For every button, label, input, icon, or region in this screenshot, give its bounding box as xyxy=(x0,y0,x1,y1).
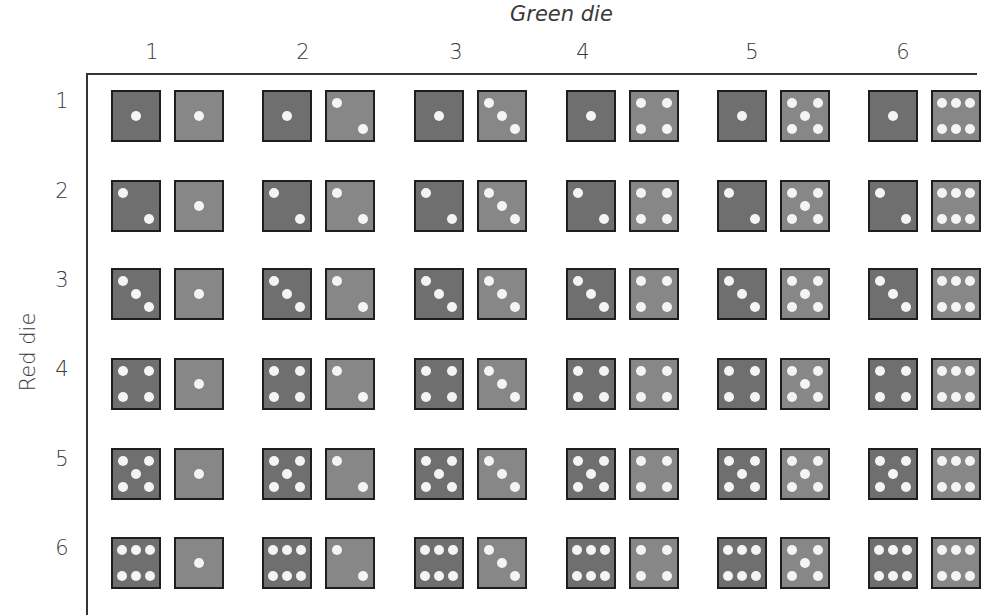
pip-dot-icon xyxy=(447,214,457,224)
pip-dot-icon xyxy=(951,276,961,286)
pip-dot-icon xyxy=(484,366,494,376)
green-die-face-6 xyxy=(931,537,981,589)
pip-dot-icon xyxy=(599,392,609,402)
pip-dot-icon xyxy=(787,482,797,492)
pip-dot-icon xyxy=(965,456,975,466)
green-die-face-2 xyxy=(325,180,375,232)
pip-dot-icon xyxy=(813,98,823,108)
pip-dot-icon xyxy=(497,379,507,389)
green-die-face-4 xyxy=(629,90,679,142)
pip-dot-icon xyxy=(937,392,947,402)
pip-dot-icon xyxy=(573,456,583,466)
pip-dot-icon xyxy=(572,571,582,581)
green-die-face-1 xyxy=(174,358,224,410)
pip-dot-icon xyxy=(875,482,885,492)
pip-dot-icon xyxy=(295,214,305,224)
pip-dot-icon xyxy=(813,124,823,134)
pip-dot-icon xyxy=(787,456,797,466)
pip-dot-icon xyxy=(800,201,810,211)
red-die-face-6 xyxy=(868,537,918,589)
pip-dot-icon xyxy=(800,469,810,479)
pip-dot-icon xyxy=(951,545,961,555)
pip-dot-icon xyxy=(447,456,457,466)
pip-dot-icon xyxy=(131,469,141,479)
green-die-face-1 xyxy=(174,180,224,232)
pip-dot-icon xyxy=(800,289,810,299)
pip-dot-icon xyxy=(951,98,961,108)
green-die-face-4 xyxy=(629,448,679,500)
pip-dot-icon xyxy=(510,392,520,402)
green-die-axis-title: Green die xyxy=(510,2,613,26)
pip-dot-icon xyxy=(434,571,444,581)
pip-dot-icon xyxy=(965,545,975,555)
green-die-face-5 xyxy=(780,537,830,589)
pip-dot-icon xyxy=(902,545,912,555)
pip-dot-icon xyxy=(965,482,975,492)
pip-dot-icon xyxy=(937,276,947,286)
pip-dot-icon xyxy=(358,571,368,581)
pip-dot-icon xyxy=(737,289,747,299)
pip-dot-icon xyxy=(787,545,797,555)
pip-dot-icon xyxy=(751,571,761,581)
green-die-face-6 xyxy=(931,90,981,142)
pip-dot-icon xyxy=(269,392,279,402)
pip-dot-icon xyxy=(813,571,823,581)
pip-dot-icon xyxy=(965,188,975,198)
red-die-row-label: 3 xyxy=(50,268,74,292)
pip-dot-icon xyxy=(724,392,734,402)
pip-dot-icon xyxy=(951,366,961,376)
pip-dot-icon xyxy=(447,366,457,376)
red-die-row-label: 1 xyxy=(50,89,74,113)
green-die-face-5 xyxy=(780,180,830,232)
pip-dot-icon xyxy=(497,201,507,211)
pip-dot-icon xyxy=(750,214,760,224)
pip-dot-icon xyxy=(573,366,583,376)
green-die-face-3 xyxy=(477,90,527,142)
red-die-face-2 xyxy=(111,180,161,232)
green-die-face-3 xyxy=(477,448,527,500)
pip-dot-icon xyxy=(874,571,884,581)
pip-dot-icon xyxy=(117,571,127,581)
red-die-face-3 xyxy=(717,268,767,320)
pip-dot-icon xyxy=(144,456,154,466)
green-die-column-label: 4 xyxy=(568,40,598,64)
green-die-column-label: 6 xyxy=(888,40,918,64)
pip-dot-icon xyxy=(662,214,672,224)
green-die-face-5 xyxy=(780,268,830,320)
pip-dot-icon xyxy=(901,456,911,466)
pip-dot-icon xyxy=(194,201,204,211)
red-die-face-5 xyxy=(717,448,767,500)
pip-dot-icon xyxy=(421,366,431,376)
pip-dot-icon xyxy=(787,571,797,581)
pip-dot-icon xyxy=(937,456,947,466)
pip-dot-icon xyxy=(484,276,494,286)
pip-dot-icon xyxy=(750,482,760,492)
green-die-face-3 xyxy=(477,180,527,232)
pip-dot-icon xyxy=(951,571,961,581)
pip-dot-icon xyxy=(787,124,797,134)
pip-dot-icon xyxy=(787,214,797,224)
red-die-face-5 xyxy=(111,448,161,500)
pip-dot-icon xyxy=(875,392,885,402)
green-die-column-label: 3 xyxy=(441,40,471,64)
pip-dot-icon xyxy=(888,469,898,479)
pip-dot-icon xyxy=(951,482,961,492)
pip-dot-icon xyxy=(421,392,431,402)
pip-dot-icon xyxy=(421,188,431,198)
pip-dot-icon xyxy=(295,392,305,402)
pip-dot-icon xyxy=(573,392,583,402)
pip-dot-icon xyxy=(447,302,457,312)
red-die-face-2 xyxy=(717,180,767,232)
pip-dot-icon xyxy=(724,482,734,492)
pip-dot-icon xyxy=(282,111,292,121)
pip-dot-icon xyxy=(269,276,279,286)
pip-dot-icon xyxy=(118,456,128,466)
pip-dot-icon xyxy=(724,366,734,376)
pip-dot-icon xyxy=(662,98,672,108)
pip-dot-icon xyxy=(787,276,797,286)
pip-dot-icon xyxy=(194,469,204,479)
pip-dot-icon xyxy=(787,98,797,108)
red-die-row-label: 2 xyxy=(50,179,74,203)
pip-dot-icon xyxy=(937,188,947,198)
pip-dot-icon xyxy=(888,545,898,555)
